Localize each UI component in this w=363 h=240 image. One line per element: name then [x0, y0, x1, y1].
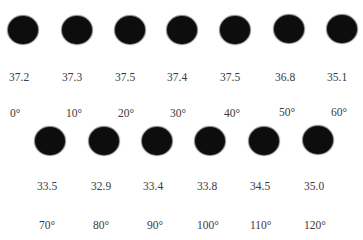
droplet-value: 37.4 — [167, 71, 187, 83]
droplet-icon — [89, 127, 119, 155]
droplet-angle: 90° — [147, 219, 163, 231]
droplet-icon — [327, 15, 357, 43]
droplet-angle: 100° — [197, 219, 219, 231]
droplet-value: 37.5 — [220, 71, 240, 83]
droplet-angle: 10° — [66, 107, 82, 119]
droplet-value: 33.8 — [197, 180, 217, 192]
droplet-value: 35.0 — [304, 180, 324, 192]
droplet-icon — [142, 127, 172, 155]
droplet-angle: 0° — [10, 107, 20, 119]
droplet-angle: 50° — [279, 106, 295, 118]
droplet-icon — [35, 127, 65, 155]
droplet-value: 33.4 — [143, 180, 163, 192]
droplet-icon — [220, 16, 250, 44]
droplet-icon — [274, 15, 304, 43]
droplet-angle: 60° — [331, 106, 347, 118]
droplet-icon — [115, 16, 145, 44]
droplet-angle: 120° — [304, 219, 326, 231]
droplet-angle: 40° — [224, 107, 240, 119]
droplet-angle: 70° — [39, 219, 55, 231]
droplet-angle: 110° — [250, 219, 271, 231]
droplet-icon — [167, 16, 197, 44]
droplet-value: 35.1 — [327, 71, 347, 83]
droplet-value: 34.5 — [250, 180, 270, 192]
droplet-angle: 20° — [118, 107, 134, 119]
droplet-value: 37.5 — [115, 71, 135, 83]
droplet-angle: 80° — [93, 219, 109, 231]
droplet-icon — [195, 127, 225, 155]
droplet-value: 37.2 — [9, 71, 29, 83]
droplet-icon — [303, 126, 333, 154]
droplet-icon — [8, 16, 38, 44]
droplet-icon — [249, 127, 279, 155]
droplet-angle: 30° — [170, 107, 186, 119]
droplet-value: 36.8 — [275, 71, 295, 83]
droplet-value: 32.9 — [91, 180, 111, 192]
droplet-value: 33.5 — [37, 180, 57, 192]
droplet-icon — [62, 16, 92, 44]
droplet-value: 37.3 — [62, 71, 82, 83]
